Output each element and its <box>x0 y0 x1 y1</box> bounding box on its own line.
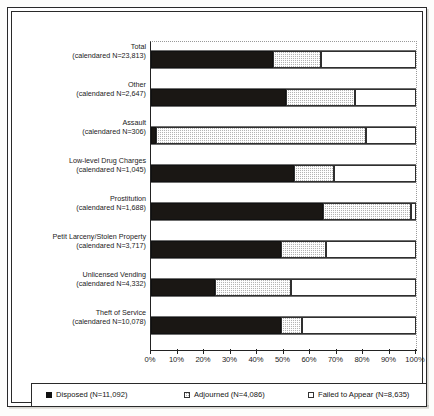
gridline <box>151 68 416 69</box>
bar-segment-disposed <box>151 89 286 106</box>
gridline <box>151 182 416 183</box>
bar-segment-fta <box>334 165 416 182</box>
bar-segment-adjourned <box>294 165 334 182</box>
category-label: Unlicensed Vending(calendared N=4,332) <box>16 270 146 289</box>
category-label-count: (calendared N=2,647) <box>16 89 146 98</box>
gridline <box>151 296 416 297</box>
legend-item[interactable]: Adjourned (N=4,086) <box>184 390 265 399</box>
category-label-name: Low-level Drug Charges <box>16 156 146 165</box>
table-row <box>151 127 416 144</box>
gridline <box>151 220 416 221</box>
bar-segment-adjourned <box>281 241 326 258</box>
bar-segment-disposed <box>151 317 281 334</box>
bar-segment-adjourned <box>323 203 410 220</box>
category-label-count: (calendared N=4,332) <box>16 279 146 288</box>
category-label-count: (calendared N=3,717) <box>16 241 146 250</box>
category-label-count: (calendared N=1,688) <box>16 203 146 212</box>
x-axis-tick <box>415 349 416 354</box>
category-label: Low-level Drug Charges(calendared N=1,04… <box>16 156 146 175</box>
legend-swatch-adjourned-icon <box>184 392 190 398</box>
bar-segment-adjourned <box>286 89 355 106</box>
table-row <box>151 241 416 258</box>
table-row <box>151 51 416 68</box>
category-label: Other(calendared N=2,647) <box>16 80 146 99</box>
x-axis-tick <box>362 349 363 354</box>
bar-segment-fta <box>326 241 416 258</box>
legend-item[interactable]: Failed to Appear (N=8,635) <box>308 390 409 399</box>
legend-swatch-fta-icon <box>308 392 314 398</box>
legend-label: Adjourned (N=4,086) <box>194 390 265 399</box>
x-axis-tick <box>230 349 231 354</box>
category-label: Total(calendared N=23,813) <box>16 42 146 61</box>
bar-segment-disposed <box>151 241 281 258</box>
bar-segment-adjourned <box>281 317 302 334</box>
legend-label: Failed to Appear (N=8,635) <box>318 390 409 399</box>
category-label-name: Total <box>16 42 146 51</box>
x-axis-tick <box>203 349 204 354</box>
bar-segment-fta <box>302 317 416 334</box>
category-label: Assault(calendared N=306) <box>16 118 146 137</box>
table-row <box>151 165 416 182</box>
table-row <box>151 89 416 106</box>
bar-segment-disposed <box>151 165 294 182</box>
stacked-bar-chart-figure: Total(calendared N=23,813)Other(calendar… <box>0 0 434 416</box>
x-axis-tick <box>150 349 151 354</box>
bar-segment-disposed <box>151 203 323 220</box>
bar-segment-adjourned <box>215 279 292 296</box>
table-row <box>151 279 416 296</box>
gridline <box>151 144 416 145</box>
bar-segment-fta <box>321 51 416 68</box>
bar-segment-disposed <box>151 279 215 296</box>
category-label-count: (calendared N=10,078) <box>16 317 146 326</box>
x-axis-tick-labels: 0%10%20%30%40%50%60%70%80%90%100% <box>130 355 434 369</box>
gridline <box>151 334 416 335</box>
x-axis-tick <box>177 349 178 354</box>
plot-area <box>150 41 417 350</box>
x-axis-tick <box>389 349 390 354</box>
gridline <box>151 106 416 107</box>
category-label-count: (calendared N=23,813) <box>16 51 146 60</box>
bar-segment-adjourned <box>156 127 365 144</box>
x-axis-tick <box>256 349 257 354</box>
legend-swatch-disposed-icon <box>46 392 52 398</box>
category-label-name: Unlicensed Vending <box>16 270 146 279</box>
category-label-name: Other <box>16 80 146 89</box>
figure-inner-border: Total(calendared N=23,813)Other(calendar… <box>11 11 423 403</box>
bar-segment-fta <box>355 89 416 106</box>
table-row <box>151 317 416 334</box>
category-label-name: Assault <box>16 118 146 127</box>
legend-item[interactable]: Disposed (N=11,092) <box>46 390 127 399</box>
category-label: Prostitution(calendared N=1,688) <box>16 194 146 213</box>
bar-segment-adjourned <box>273 51 321 68</box>
category-label-name: Prostitution <box>16 194 146 203</box>
category-label-name: Petit Larceny/Stolen Property <box>16 232 146 241</box>
bar-segment-disposed <box>151 51 273 68</box>
category-label: Petit Larceny/Stolen Property(calendared… <box>16 232 146 251</box>
x-axis-tick <box>309 349 310 354</box>
category-label-count: (calendared N=1,045) <box>16 165 146 174</box>
bar-segment-fta <box>291 279 416 296</box>
x-axis-tick-label: 100% <box>395 355 434 364</box>
category-label-count: (calendared N=306) <box>16 127 146 136</box>
table-row <box>151 203 416 220</box>
x-axis-tick <box>283 349 284 354</box>
category-label: Theft of Service(calendared N=10,078) <box>16 308 146 327</box>
x-axis-tick <box>336 349 337 354</box>
category-label-name: Theft of Service <box>16 308 146 317</box>
bar-segment-fta <box>366 127 416 144</box>
chart-legend: Disposed (N=11,092)Adjourned (N=4,086)Fa… <box>31 383 427 407</box>
gridline <box>151 258 416 259</box>
bar-segment-fta <box>411 203 416 220</box>
legend-label: Disposed (N=11,092) <box>56 390 127 399</box>
